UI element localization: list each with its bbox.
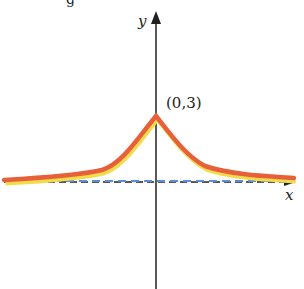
function-graph: g y x (0,3) <box>0 0 304 289</box>
peak-point-label: (0,3) <box>166 94 202 112</box>
y-axis-label: y <box>137 12 147 30</box>
bell-curve <box>4 116 294 180</box>
y-axis-arrow-icon <box>151 11 161 24</box>
caption-fragment: g <box>66 0 75 7</box>
x-axis-label: x <box>285 186 294 204</box>
